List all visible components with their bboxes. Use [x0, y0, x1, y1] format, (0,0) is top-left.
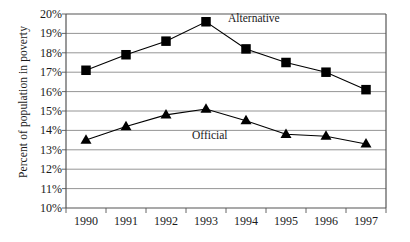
- series-label-alternative: Alternative: [228, 12, 280, 24]
- data-point-alternative-1991: [121, 50, 131, 60]
- series-label-official: Official: [192, 129, 228, 141]
- data-point-alternative-1996: [321, 67, 331, 77]
- data-point-alternative-1994: [241, 44, 251, 54]
- data-point-alternative-1997: [361, 85, 371, 95]
- data-point-official-1996: [321, 130, 332, 140]
- data-point-official-1992: [161, 109, 172, 119]
- poverty-line-chart: Percent of population in poverty 20%19%1…: [0, 0, 410, 242]
- data-point-official-1993: [201, 103, 212, 113]
- plot-area: [0, 0, 410, 242]
- data-point-alternative-1992: [161, 36, 171, 46]
- data-point-alternative-1995: [281, 58, 291, 68]
- data-point-alternative-1990: [81, 66, 91, 76]
- data-point-alternative-1993: [201, 17, 211, 27]
